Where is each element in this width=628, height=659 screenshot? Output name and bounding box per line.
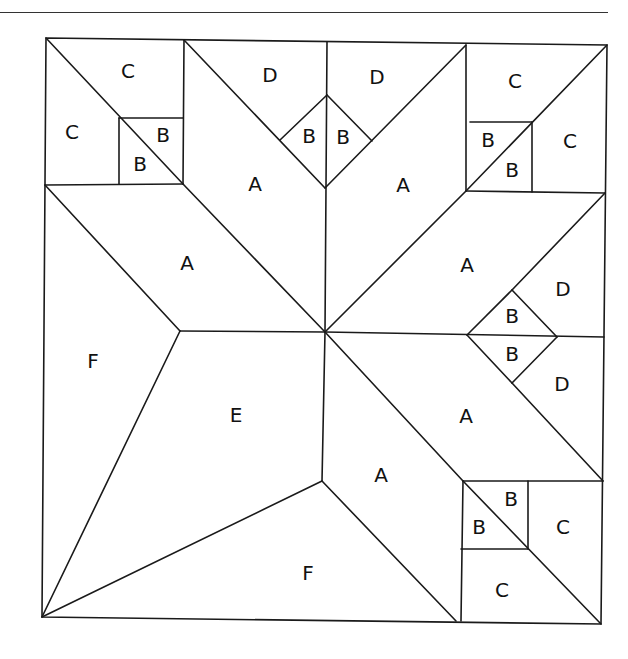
label-b: B — [505, 304, 519, 328]
label-a: A — [460, 253, 474, 277]
label-b: B — [472, 515, 486, 539]
top-left-block — [45, 38, 184, 185]
label-c: C — [508, 69, 522, 93]
bottom-right-block — [461, 481, 603, 624]
label-d: D — [555, 277, 570, 301]
label-c: C — [495, 578, 509, 602]
label-c: C — [65, 120, 79, 144]
lower-left-section — [42, 331, 456, 621]
label-c: C — [556, 515, 570, 539]
label-a: A — [396, 173, 410, 197]
label-b: B — [156, 123, 170, 147]
top-center-section — [184, 40, 466, 332]
label-a: A — [459, 404, 473, 428]
label-f: F — [302, 561, 314, 585]
label-d: D — [554, 372, 569, 396]
label-f: F — [87, 349, 99, 373]
label-b: B — [481, 128, 495, 152]
label-c: C — [563, 129, 577, 153]
label-a: A — [248, 172, 262, 196]
label-a: A — [180, 251, 194, 275]
label-e: E — [230, 403, 243, 427]
label-d: D — [369, 65, 384, 89]
top-right-block — [466, 45, 607, 193]
label-b: B — [133, 152, 147, 176]
label-b: B — [505, 158, 519, 182]
quilt-block-diagram: C C B B D D B B A A C C B B A A D B B D … — [0, 0, 628, 659]
label-b: B — [336, 125, 350, 149]
label-b: B — [504, 487, 518, 511]
label-b: B — [302, 124, 316, 148]
label-c: C — [121, 59, 135, 83]
label-a: A — [374, 463, 388, 487]
label-d: D — [262, 63, 277, 87]
label-b: B — [505, 342, 519, 366]
